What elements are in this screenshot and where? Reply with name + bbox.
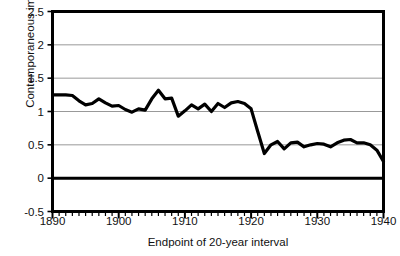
plot-area [0,0,400,256]
chart-container: Contemporaneous impact -0.500.511.522.5 … [0,0,400,256]
gridlines [53,45,384,145]
data-line-series-1 [53,90,384,161]
x-axis-title: Endpoint of 20-year interval [52,236,384,248]
